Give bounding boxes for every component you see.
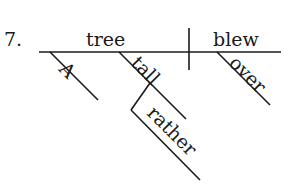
adjective-word: tall (127, 51, 165, 89)
item-number: 7. (4, 28, 22, 50)
subject-word: tree (86, 28, 125, 50)
sentence-diagram: 7. tree blew A tall rather over (0, 0, 296, 192)
verb-word: blew (213, 28, 259, 50)
adverb-connector-line (131, 83, 150, 110)
verb-modifier-word: over (225, 51, 271, 97)
